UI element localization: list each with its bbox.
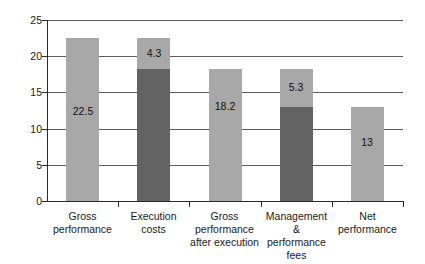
x-axis-category-label: Execution costs [118, 210, 189, 236]
x-axis-tick [403, 201, 404, 207]
bar-chart: 0510152025 GrossperformanceExecution cos… [0, 0, 425, 264]
x-axis-category-label-line: performance [332, 223, 403, 236]
x-axis-tick [118, 201, 119, 207]
bar-value-label: 4.3 [137, 48, 171, 59]
y-axis-tick-label: 10 [30, 124, 42, 134]
bar[interactable] [280, 20, 313, 201]
x-axis-tick [189, 201, 190, 207]
x-axis-category-label-line: fees [261, 249, 332, 262]
x-axis-category-label: Grossperformance [47, 210, 118, 236]
bar-segment [351, 107, 384, 201]
y-axis-tick-label: 25 [30, 15, 42, 25]
bar-value-label: 22.5 [66, 106, 100, 117]
x-axis-category-label-line: performance [47, 223, 118, 236]
bar-value-label: 18.2 [208, 101, 242, 112]
bar[interactable] [351, 20, 384, 201]
y-axis-tick-label: 5 [36, 160, 42, 170]
bar-value-label: 5.3 [279, 82, 313, 93]
x-axis-category-label: Grossperformanceafter execution [189, 210, 260, 249]
y-axis-tick-label: 20 [30, 51, 42, 61]
bar-value-label: 13 [350, 137, 384, 148]
x-axis-category-label-line: after execution [189, 236, 260, 249]
x-axis-category-label-line: Execution costs [118, 210, 189, 236]
x-axis-category-label-line: performance [261, 236, 332, 249]
x-axis-category-label-line: Gross [47, 210, 118, 223]
x-axis-tick [261, 201, 262, 207]
x-axis-line [47, 201, 404, 202]
x-axis-tick [332, 201, 333, 207]
x-axis-category-label-line: performance [189, 223, 260, 236]
y-axis-tick-label: 0 [36, 196, 42, 206]
y-axis-tick-label: 15 [30, 87, 42, 97]
x-axis-category-label-line: Net [332, 210, 403, 223]
bar-segment [280, 107, 313, 201]
x-axis-category-label: Netperformance [332, 210, 403, 236]
bar-segment [66, 38, 99, 201]
bar-segment [137, 69, 170, 201]
x-axis-category-label: Management &performancefees [261, 210, 332, 262]
bar-segment [209, 69, 242, 201]
x-axis-category-label-line: Gross [189, 210, 260, 223]
x-axis-category-label-line: Management & [261, 210, 332, 236]
